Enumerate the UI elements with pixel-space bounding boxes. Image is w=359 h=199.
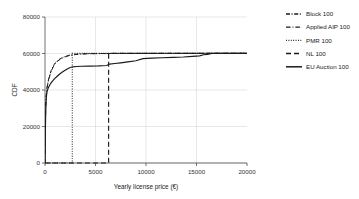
x-tick-label-0: 0	[43, 168, 47, 175]
x-tick-label-10000: 10000	[137, 168, 155, 175]
y-tick-label-0: 0	[37, 159, 41, 166]
y-axis-title: CDF	[11, 83, 18, 96]
legend-label-eu-auction-100: EU Auction 100	[306, 63, 349, 70]
chart-svg: 0 20000 40000 60000 80000 0 5000 10000 1…	[0, 0, 359, 199]
legend-label-block-100: Block 100	[306, 10, 334, 17]
y-tick-label-20000: 20000	[23, 123, 41, 130]
legend-label-nl-100: NL 100	[306, 50, 326, 57]
x-tick-label-20000: 20000	[238, 168, 256, 175]
legend-label-applied-aip-100: Applied AIP 100	[306, 23, 350, 30]
y-tick-label-80000: 80000	[23, 13, 41, 20]
y-tick-label-40000: 40000	[23, 86, 41, 93]
y-tick-label-60000: 60000	[23, 50, 41, 57]
x-tick-label-15000: 15000	[188, 168, 206, 175]
legend-label-pmr-100: PMR 100	[306, 37, 332, 44]
cdf-chart-figure: 0 20000 40000 60000 80000 0 5000 10000 1…	[0, 0, 359, 199]
x-axis-title: Yearly license price (€)	[114, 183, 178, 191]
x-tick-label-5000: 5000	[89, 168, 103, 175]
